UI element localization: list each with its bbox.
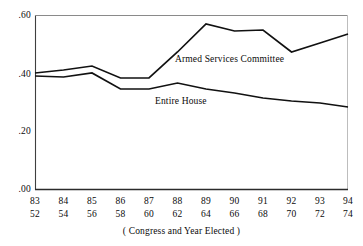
x-tick-year-9: 70 [281, 209, 303, 219]
x-tick-congress-2: 85 [81, 196, 103, 206]
x-tick-year-4: 60 [138, 209, 160, 219]
x-tick-year-11: 74 [337, 209, 359, 219]
chart-container: .60 .40 .20 .00 83 84 85 86 87 88 89 90 … [0, 0, 363, 246]
x-tick-year-7: 66 [224, 209, 246, 219]
x-tick-year-2: 56 [81, 209, 103, 219]
x-tick-congress-9: 92 [281, 196, 303, 206]
x-axis-caption: ( Congress and Year Elected ) [0, 226, 363, 236]
x-tick-congress-8: 91 [252, 196, 274, 206]
x-tick-year-3: 58 [110, 209, 132, 219]
x-tick-year-0: 52 [24, 209, 46, 219]
x-tick-year-8: 68 [252, 209, 274, 219]
x-tick-year-10: 72 [309, 209, 331, 219]
y-tick-label-00: .00 [5, 184, 31, 194]
x-tick-congress-7: 90 [224, 196, 246, 206]
x-tick-congress-0: 83 [24, 196, 46, 206]
x-tick-year-5: 62 [167, 209, 189, 219]
y-tick-label-40: .40 [5, 69, 31, 79]
series-label-entire-house: Entire House [155, 96, 207, 106]
y-tick-label-20: .20 [5, 126, 31, 136]
x-tick-year-6: 64 [195, 209, 217, 219]
x-tick-congress-10: 93 [309, 196, 331, 206]
x-tick-congress-11: 94 [337, 196, 359, 206]
x-tick-year-1: 54 [53, 209, 75, 219]
x-tick-congress-5: 88 [167, 196, 189, 206]
x-tick-congress-1: 84 [53, 196, 75, 206]
x-tick-congress-3: 86 [110, 196, 132, 206]
x-tick-congress-4: 87 [138, 196, 160, 206]
y-tick-label-60: .60 [5, 10, 31, 20]
series-line-armed-services [35, 24, 348, 78]
x-tick-congress-6: 89 [195, 196, 217, 206]
series-label-armed-services: Armed Services Committee [175, 54, 284, 64]
